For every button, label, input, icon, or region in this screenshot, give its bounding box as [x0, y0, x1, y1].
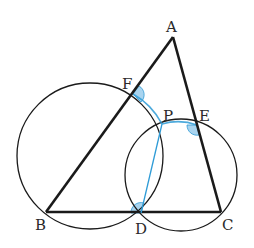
label-F: F — [122, 75, 132, 93]
label-E: E — [199, 107, 210, 125]
segment-AC — [173, 37, 221, 212]
segment-PD — [141, 124, 162, 213]
segment-AB — [46, 37, 173, 212]
label-P: P — [163, 107, 173, 125]
label-D: D — [135, 220, 147, 238]
geometry-figure: A F P E B D C — [0, 0, 254, 248]
circle-DCEP — [125, 119, 237, 231]
label-C: C — [222, 216, 233, 234]
label-B: B — [35, 216, 46, 234]
label-A: A — [165, 18, 177, 36]
figure-svg: A F P E B D C — [0, 0, 254, 248]
